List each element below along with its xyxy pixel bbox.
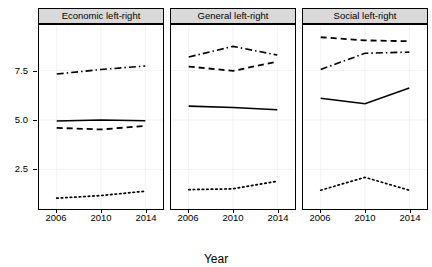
x-tick-label: 2006 (45, 213, 66, 223)
x-tick-label: 2014 (399, 213, 420, 223)
x-tick-label: 2006 (177, 213, 198, 223)
x-tick-label: 2010 (354, 213, 375, 223)
x-axis: 200620102014 (302, 210, 428, 224)
x-axis-title: Year (0, 253, 432, 265)
plot-area (170, 24, 296, 210)
x-tick-label: 2010 (222, 213, 243, 223)
plot-area (38, 24, 164, 210)
y-tick-label: 5.0 (2, 115, 28, 125)
facet-strip-label: Social left-right (302, 8, 428, 24)
x-tick-label: 2006 (309, 213, 330, 223)
y-tick-mark (33, 71, 37, 72)
x-tick-label: 2014 (267, 213, 288, 223)
x-axis: 200620102014 (170, 210, 296, 224)
facet-strip-label: Economic left-right (38, 8, 164, 24)
y-tick-mark (33, 120, 37, 121)
facet-panel: Economic left-right200620102014 (38, 8, 164, 224)
plot-area (302, 24, 428, 210)
y-tick-mark (33, 169, 37, 170)
x-axis: 200620102014 (38, 210, 164, 224)
x-tick-label: 2014 (135, 213, 156, 223)
facet-strip-label: General left-right (170, 8, 296, 24)
y-tick-label: 7.5 (2, 66, 28, 76)
chart-figure: 2.55.07.5 Economic left-right20062010201… (0, 0, 432, 267)
x-tick-label: 2010 (90, 213, 111, 223)
facet-panel: Social left-right200620102014 (302, 8, 428, 224)
facet-panel: General left-right200620102014 (170, 8, 296, 224)
y-tick-label: 2.5 (2, 164, 28, 174)
